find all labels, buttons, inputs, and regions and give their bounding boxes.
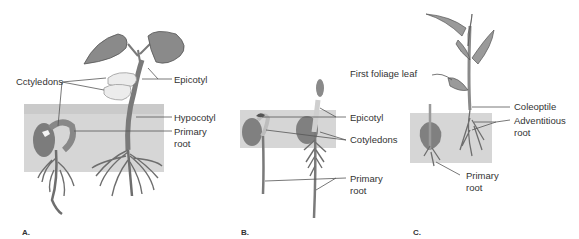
label-primary-root-b-line2: root (350, 185, 366, 196)
label-adventitious-root-c-line2: root (514, 127, 530, 138)
label-first-foliage-leaf-c: First foliage leaf (350, 68, 417, 79)
panel-letter-a: A. (22, 228, 30, 237)
label-primary-root-c-line1: Primary (466, 170, 499, 181)
label-coleoptile-c: Coleoptile (514, 101, 556, 112)
label-primary-root-a-line2: root (174, 138, 190, 149)
seed-b-left (242, 118, 262, 146)
panel-letter-c: C. (413, 228, 421, 237)
label-primary-root-b-line1: Primary (350, 173, 383, 184)
seedling-germination-diagram (0, 0, 579, 239)
panel-letter-b: B. (241, 228, 249, 237)
label-epicotyl-a: Epicotyl (174, 74, 207, 85)
label-adventitious-root-c-line1: Adventitious (514, 115, 566, 126)
label-primary-root-a-line1: Primary (174, 126, 207, 137)
leaf-a-right (148, 31, 184, 63)
panel-c-illustration (410, 14, 510, 175)
label-cotyledons-b: Cotyledons (350, 134, 398, 145)
label-hypocotyl-a: Hypocotyl (174, 112, 216, 123)
cotyledon-a-lower (104, 84, 131, 100)
label-epicotyl-b: Epicotyl (350, 112, 383, 123)
label-primary-root-c-line2: root (466, 182, 482, 193)
panel-a-illustration (24, 31, 184, 214)
leaf-a-left (84, 34, 127, 64)
panel-b-illustration (240, 79, 346, 218)
label-cotyledons-a: Cctyledons (16, 76, 63, 87)
